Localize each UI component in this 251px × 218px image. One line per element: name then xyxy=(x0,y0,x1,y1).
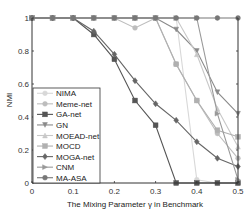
data-point-marker xyxy=(153,123,158,128)
data-point-marker xyxy=(112,16,117,21)
data-point-marker xyxy=(133,98,138,103)
data-point-marker xyxy=(215,155,220,161)
legend-marker-icon xyxy=(43,101,48,106)
x-tick-label: 0.5 xyxy=(232,187,244,196)
legend-label: MOEAD-net xyxy=(56,132,100,141)
data-point-marker xyxy=(153,16,158,21)
data-point-marker xyxy=(133,26,138,31)
data-point-marker xyxy=(174,62,179,67)
y-tick-label: 0.8 xyxy=(18,47,30,56)
legend-label: MOCD xyxy=(56,142,81,151)
y-tick-label: 0.2 xyxy=(18,146,30,155)
series-ma-asa xyxy=(30,16,241,21)
legend: NIMAMeme-netGA-netGNMOEAD-netMOCDMOGA-ne… xyxy=(33,88,100,183)
data-point-marker xyxy=(215,128,220,133)
x-tick-label: 0 xyxy=(30,187,35,196)
data-point-marker xyxy=(91,16,96,21)
data-point-marker xyxy=(71,16,76,21)
x-tick-label: 0.2 xyxy=(109,187,121,196)
data-point-marker xyxy=(133,16,138,21)
data-point-marker xyxy=(174,16,179,21)
data-point-marker xyxy=(50,16,55,21)
legend-label: GN xyxy=(56,121,68,130)
x-tick-label: 0.1 xyxy=(68,187,80,196)
data-point-marker xyxy=(194,98,199,103)
y-tick-label: 0 xyxy=(25,179,30,188)
legend-label: CNM xyxy=(56,163,75,172)
y-axis-label: NMI xyxy=(5,93,14,108)
nmi-line-chart: 00.10.20.30.40.500.20.40.60.81 NIMAMeme-… xyxy=(0,0,251,218)
x-axis-label: The Mixing Parameter γ in Benchmark xyxy=(67,200,204,209)
legend-label: MOGA-net xyxy=(56,153,95,162)
legend-label: MA-ASA xyxy=(56,174,87,183)
y-tick-label: 1 xyxy=(25,14,30,23)
y-tick-label: 0.4 xyxy=(18,113,30,122)
legend-label: NIMA xyxy=(56,89,77,98)
y-tick-label: 0.6 xyxy=(18,80,30,89)
legend-marker-icon xyxy=(43,175,48,180)
data-point-marker xyxy=(215,16,220,21)
x-tick-label: 0.3 xyxy=(150,187,162,196)
legend-label: Meme-net xyxy=(56,100,93,109)
legend-label: GA-net xyxy=(56,110,82,119)
data-point-marker xyxy=(194,16,199,21)
x-tick-label: 0.4 xyxy=(191,187,203,196)
legend-marker-icon xyxy=(43,91,48,96)
legend-marker-icon xyxy=(43,144,48,149)
legend-marker-icon xyxy=(43,112,48,117)
